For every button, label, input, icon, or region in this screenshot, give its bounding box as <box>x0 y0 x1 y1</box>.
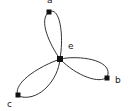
edge-loop-e-a <box>45 11 62 59</box>
node-b <box>105 76 110 81</box>
node-c <box>16 93 21 98</box>
node-a <box>47 10 52 15</box>
edge-loop-e-c <box>17 59 60 97</box>
label-b: b <box>115 75 121 85</box>
label-c: c <box>7 99 12 109</box>
edge-loop-e-b <box>60 58 108 80</box>
trefoil-graph: a b c e <box>0 0 129 111</box>
node-e <box>57 56 63 62</box>
label-a: a <box>47 0 53 5</box>
label-e: e <box>68 41 74 51</box>
